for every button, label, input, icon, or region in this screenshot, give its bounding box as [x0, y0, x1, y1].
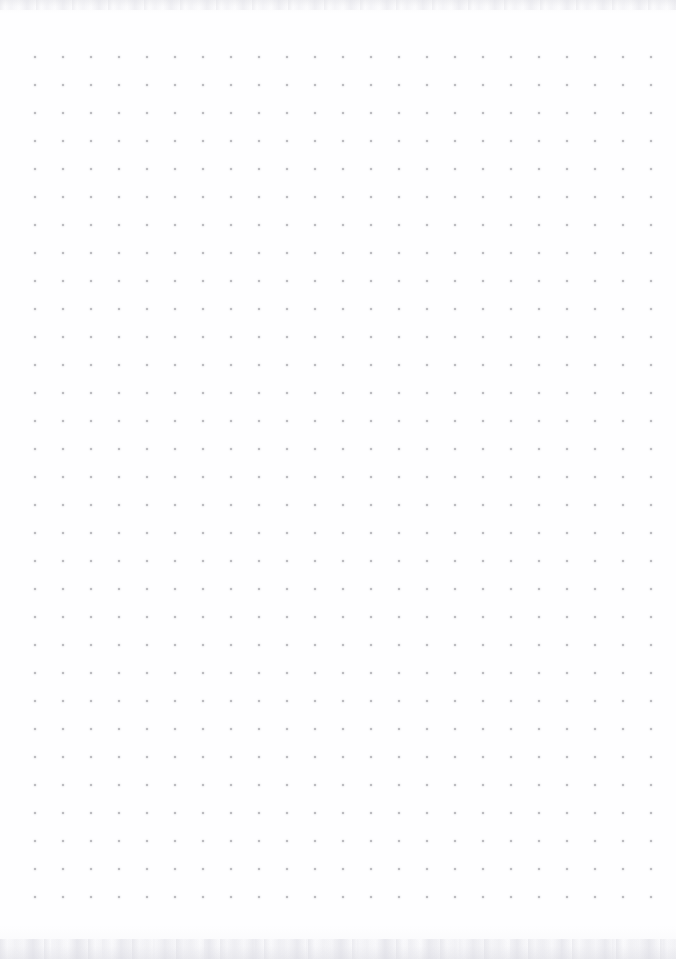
grid-dot — [258, 280, 260, 282]
grid-dot — [398, 420, 400, 422]
grid-dot — [454, 112, 456, 114]
grid-dot — [230, 588, 232, 590]
grid-dot — [454, 84, 456, 86]
grid-dot — [146, 784, 148, 786]
grid-dot — [426, 476, 428, 478]
grid-dot — [398, 112, 400, 114]
grid-dot — [342, 644, 344, 646]
grid-dot — [370, 364, 372, 366]
grid-dot — [482, 112, 484, 114]
grid-dot — [258, 728, 260, 730]
grid-dot — [482, 812, 484, 814]
grid-dot — [202, 672, 204, 674]
grid-dot — [286, 140, 288, 142]
grid-dot — [398, 308, 400, 310]
grid-dot — [426, 588, 428, 590]
grid-dot — [34, 140, 36, 142]
grid-dot — [566, 588, 568, 590]
grid-dot — [34, 56, 36, 58]
grid-dot — [174, 784, 176, 786]
grid-dot — [650, 504, 652, 506]
grid-dot — [510, 252, 512, 254]
grid-dot — [118, 56, 120, 58]
grid-dot — [34, 224, 36, 226]
grid-dot — [62, 560, 64, 562]
grid-dot — [342, 476, 344, 478]
grid-dot — [454, 812, 456, 814]
grid-dot — [342, 784, 344, 786]
grid-dot — [538, 896, 540, 898]
grid-dot — [426, 756, 428, 758]
grid-dot — [342, 84, 344, 86]
grid-dot — [398, 280, 400, 282]
grid-dot — [174, 840, 176, 842]
grid-dot — [538, 644, 540, 646]
grid-dot — [594, 56, 596, 58]
grid-dot — [398, 504, 400, 506]
grid-dot — [594, 588, 596, 590]
grid-dot — [566, 728, 568, 730]
grid-dot — [622, 728, 624, 730]
grid-dot — [398, 252, 400, 254]
grid-dot — [398, 700, 400, 702]
grid-dot — [62, 700, 64, 702]
grid-dot — [342, 140, 344, 142]
grid-dot — [90, 140, 92, 142]
grid-dot — [34, 364, 36, 366]
grid-dot — [286, 812, 288, 814]
grid-dot — [34, 644, 36, 646]
grid-dot — [314, 56, 316, 58]
grid-dot — [538, 476, 540, 478]
grid-dot — [146, 728, 148, 730]
grid-dot — [174, 448, 176, 450]
grid-dot — [510, 448, 512, 450]
grid-dot — [370, 896, 372, 898]
grid-dot — [174, 616, 176, 618]
grid-dot — [34, 840, 36, 842]
grid-dot — [90, 756, 92, 758]
grid-dot — [146, 476, 148, 478]
grid-dot — [622, 196, 624, 198]
grid-dot — [426, 224, 428, 226]
grid-dot — [230, 840, 232, 842]
grid-dot — [34, 336, 36, 338]
grid-dot — [510, 532, 512, 534]
grid-dot — [650, 588, 652, 590]
grid-dot — [426, 392, 428, 394]
grid-dot — [230, 336, 232, 338]
grid-dot — [90, 364, 92, 366]
grid-dot — [34, 252, 36, 254]
grid-dot — [90, 196, 92, 198]
grid-dot — [90, 868, 92, 870]
grid-dot — [650, 252, 652, 254]
grid-dot — [370, 84, 372, 86]
grid-dot — [650, 868, 652, 870]
grid-dot — [258, 532, 260, 534]
grid-dot — [314, 588, 316, 590]
grid-dot — [314, 784, 316, 786]
grid-dot — [146, 336, 148, 338]
grid-dot — [118, 448, 120, 450]
grid-dot — [146, 252, 148, 254]
grid-dot — [566, 252, 568, 254]
grid-dot — [174, 168, 176, 170]
grid-dot — [118, 784, 120, 786]
grid-dot — [90, 84, 92, 86]
grid-dot — [258, 420, 260, 422]
grid-dot — [118, 280, 120, 282]
grid-dot — [510, 308, 512, 310]
grid-dot — [34, 700, 36, 702]
grid-dot — [342, 308, 344, 310]
grid-dot — [314, 476, 316, 478]
grid-dot — [398, 896, 400, 898]
grid-dot — [566, 308, 568, 310]
grid-dot — [538, 140, 540, 142]
grid-dot — [650, 168, 652, 170]
grid-dot — [538, 252, 540, 254]
grid-dot — [398, 84, 400, 86]
grid-dot — [650, 224, 652, 226]
grid-dot — [510, 476, 512, 478]
grid-dot — [426, 504, 428, 506]
grid-dot — [286, 364, 288, 366]
grid-dot — [398, 336, 400, 338]
